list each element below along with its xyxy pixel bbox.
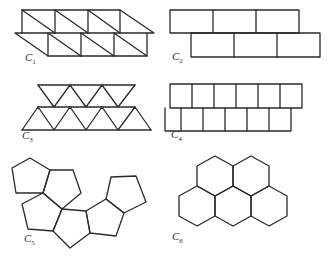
label-c1: C1 (25, 51, 36, 66)
label-c6: C6 (172, 230, 183, 245)
label-c2: C2 (172, 50, 183, 65)
tiling-c6 (179, 156, 287, 226)
tiling-c1 (15, 10, 154, 56)
tiling-c4 (165, 84, 302, 131)
tiling-c3 (22, 85, 151, 130)
tiling-c2 (170, 10, 320, 57)
tilings-diagram (0, 0, 329, 259)
label-c4: C4 (171, 128, 182, 143)
label-c5: C5 (24, 232, 35, 247)
label-c3: C3 (22, 129, 33, 144)
